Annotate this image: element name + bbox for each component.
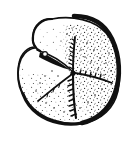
groove-bead <box>43 52 48 57</box>
figure-root <box>0 0 138 142</box>
specimen-illustration <box>12 13 125 131</box>
figure-canvas <box>0 0 138 142</box>
